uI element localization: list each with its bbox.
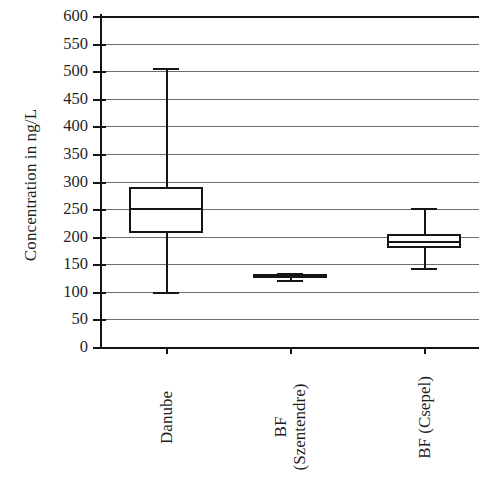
median-line — [387, 241, 461, 243]
y-tick-mark — [93, 347, 106, 349]
gridline — [100, 264, 479, 265]
y-tick-label: 150 — [40, 256, 88, 273]
plot-frame-top — [100, 16, 479, 18]
x-axis-label: Danube — [106, 360, 226, 476]
y-tick-mark — [93, 44, 106, 46]
y-tick-mark — [93, 319, 106, 321]
y-tick-label: 0 — [40, 339, 88, 356]
whisker-cap-lower — [277, 280, 303, 282]
y-tick-label: 50 — [40, 311, 88, 328]
gridline — [100, 182, 479, 183]
median-line — [253, 275, 327, 277]
y-tick-label: 600 — [40, 8, 88, 25]
y-tick-label: 450 — [40, 91, 88, 108]
y-tick-mark — [93, 292, 106, 294]
x-axis-label-line: BF (Csepel) — [415, 376, 434, 459]
whisker-cap-upper — [411, 208, 437, 210]
y-tick-mark — [93, 237, 106, 239]
y-tick-mark — [93, 16, 106, 18]
gridline — [100, 44, 479, 45]
gridline — [100, 154, 479, 155]
gridline — [100, 71, 479, 72]
y-tick-mark — [93, 264, 106, 266]
y-tick-label: 300 — [40, 174, 88, 191]
whisker-cap-lower — [411, 268, 437, 270]
x-axis-label-line: (Szentendre) — [290, 347, 309, 477]
whisker-cap-lower — [153, 292, 179, 294]
gridline — [100, 319, 479, 320]
y-tick-mark — [93, 182, 106, 184]
x-axis-label-line: BF — [271, 417, 290, 438]
whisker-cap-upper — [153, 68, 179, 70]
y-tick-mark — [93, 154, 106, 156]
box-plot-figure: Concentration in ng/L 600550500450400350… — [0, 0, 479, 477]
y-axis-tick-labels: 600550500450400350300250200150100500 — [38, 0, 88, 477]
y-tick-label: 350 — [40, 146, 88, 163]
whisker-line — [166, 68, 168, 292]
plot-area — [100, 16, 479, 347]
gridline — [100, 126, 479, 127]
gridline — [100, 99, 479, 100]
y-tick-label: 550 — [40, 36, 88, 53]
x-axis-label: BF(Szentendre) — [230, 360, 350, 476]
y-tick-label: 200 — [40, 229, 88, 246]
x-axis-label: BF (Csepel) — [364, 360, 479, 476]
y-tick-mark — [93, 209, 106, 211]
y-tick-label: 100 — [40, 284, 88, 301]
y-tick-label: 400 — [40, 118, 88, 135]
y-tick-label: 500 — [40, 63, 88, 80]
x-axis-label-line: Danube — [157, 391, 176, 444]
median-line — [129, 208, 203, 210]
y-tick-label: 250 — [40, 201, 88, 218]
y-tick-mark — [93, 126, 106, 128]
y-tick-mark — [93, 99, 106, 101]
y-tick-mark — [93, 71, 106, 73]
